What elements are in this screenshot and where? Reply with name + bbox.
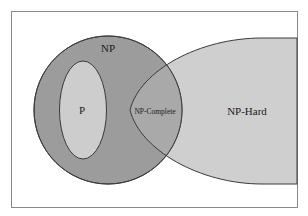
complexity-classes-diagram: NP P NP-Complete NP-Hard [0, 0, 308, 216]
np-label: NP [101, 42, 115, 54]
np-hard-label: NP-Hard [227, 105, 267, 117]
p-label: P [79, 104, 85, 116]
venn-diagram: NP P NP-Complete NP-Hard [0, 0, 308, 216]
np-complete-label: NP-Complete [134, 107, 176, 116]
